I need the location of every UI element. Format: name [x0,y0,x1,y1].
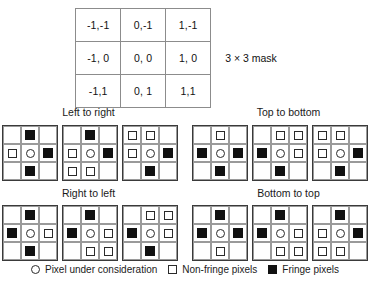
filled-square-icon [353,228,363,238]
filled-square-icon [67,228,77,238]
circle-icon [216,229,225,238]
pixel-cell-2-2 [39,242,57,260]
pixel-cell-2-1 [331,162,349,180]
pixel-cell-2-1 [21,242,39,260]
pixel-cell-1-2 [99,224,117,242]
pixel-cell-0-1 [211,206,229,224]
pixel-cell-1-2 [349,144,367,162]
filled-square-icon [197,228,207,238]
filled-square-icon [268,265,277,274]
pixel-cell-0-2 [289,126,307,144]
pixel-cell-2-1 [21,162,39,180]
filled-square-icon [85,130,95,140]
grid-row-1 [0,125,370,181]
pixel-cell-2-2 [289,162,307,180]
open-square-icon [86,167,95,176]
pixel-cell-0-1 [21,126,39,144]
pixel-cell-0-2 [39,126,57,144]
grid-rtl-2 [62,205,118,261]
circle-icon [216,149,225,158]
grid-rtl-1 [2,205,58,261]
pixel-cell-1-0 [193,144,211,162]
filled-square-icon [163,148,173,158]
open-square-icon [276,131,285,140]
mask-cell-0-2: 1,-1 [166,9,211,42]
mask-cell-0-1: 0,-1 [121,9,166,42]
filled-square-icon [7,228,17,238]
circle-icon [276,149,285,158]
pixel-cell-0-2 [39,206,57,224]
filled-square-icon [25,166,35,176]
open-square-icon [276,247,285,256]
group-header-left-to-right: Left to right [0,106,185,118]
open-square-icon [146,211,155,220]
pixel-cell-2-2 [349,162,367,180]
pixel-cell-2-0 [123,162,141,180]
pixel-cell-2-0 [193,162,211,180]
open-square-icon [318,229,327,238]
open-square-icon [216,131,225,140]
open-square-icon [68,167,77,176]
pixel-cell-1-0 [313,144,331,162]
circle-icon [26,229,35,238]
pixel-cell-2-2 [159,162,177,180]
grid-ttb-3 [312,125,368,181]
table-row: -1,-1 0,-1 1,-1 [76,9,211,42]
pixel-cell-1-0 [123,144,141,162]
grid-btt-2 [252,205,308,261]
pixel-cell-2-0 [3,162,21,180]
pixel-cell-1-2 [229,144,247,162]
legend-item-fringe-pixels: Fringe pixels [268,264,339,275]
group-label-bottom-to-top: Bottom to top [257,187,319,199]
mask-cell-2-1: 0, 1 [121,75,166,108]
grid-ltr-1 [2,125,58,181]
pixel-cell-0-0 [253,206,271,224]
grid-btt-3 [312,205,368,261]
pixel-cell-2-1 [141,242,159,260]
table-row: -1,1 0, 1 1,1 [76,75,211,108]
open-square-icon [318,149,327,158]
pixel-cell-1-0 [63,144,81,162]
pixel-cell-0-1 [81,206,99,224]
grid-group-top-to-bottom [180,125,370,181]
pixel-cell-1-0 [253,224,271,242]
pixel-cell-0-2 [349,126,367,144]
pixel-cell-2-0 [313,162,331,180]
pixel-cell-2-0 [63,242,81,260]
pixel-cell-2-1 [81,242,99,260]
pixel-cell-0-1 [21,206,39,224]
mask-cell-1-0: -1, 0 [76,42,121,75]
open-square-icon [336,131,345,140]
filled-square-icon [335,210,345,220]
mask-cell-0-0: -1,-1 [76,9,121,42]
pixel-cell-0-1 [331,126,349,144]
group-headers-row-2: Right to left Bottom to top [0,187,370,199]
pixel-cell-2-1 [331,242,349,260]
pixel-cell-0-1 [271,206,289,224]
pixel-cell-2-0 [63,162,81,180]
pixel-cell-1-1 [21,224,39,242]
mask-caption: 3 × 3 mask [225,52,277,64]
filled-square-icon [145,246,155,256]
filled-square-icon [43,148,53,158]
mask-cell-1-2: 1, 0 [166,42,211,75]
pixel-cell-2-0 [313,242,331,260]
open-square-icon [146,131,155,140]
pixel-cell-0-1 [271,126,289,144]
pixel-cell-1-2 [39,224,57,242]
filled-square-icon [85,210,95,220]
legend: Pixel under consideration Non-fringe pix… [0,264,370,275]
pixel-cell-1-1 [211,224,229,242]
open-square-icon [128,131,137,140]
pixel-cell-1-1 [331,224,349,242]
pixel-cell-0-0 [3,206,21,224]
group-header-right-to-left: Right to left [0,187,185,199]
legend-item-pixel-under-consideration: Pixel under consideration [31,264,157,275]
circle-icon [336,149,345,158]
filled-square-icon [233,228,243,238]
circle-icon [86,229,95,238]
filled-square-icon [257,228,267,238]
filled-square-icon [127,228,137,238]
pixel-cell-2-2 [159,242,177,260]
pixel-cell-2-2 [229,242,247,260]
